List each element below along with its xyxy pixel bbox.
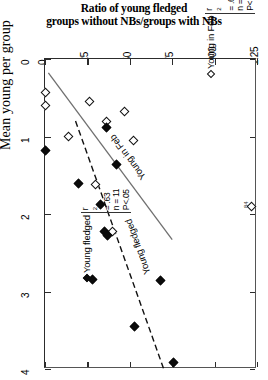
x-tick-bottom-0: [45, 362, 46, 367]
y-tick-right-2: [250, 214, 255, 215]
y-tick-label-2: 2: [20, 214, 31, 220]
x-tick-bottom-1: [87, 362, 88, 367]
legend-label-young-in-feb: Young in Feb: [205, 16, 216, 69]
y-tick-label-3: 3: [20, 292, 31, 298]
y-tick-2: [45, 214, 51, 215]
legend-r2-young-fledged: r2 = .63: [81, 189, 112, 210]
legend-stats-young-fledged: r2 = .63 n = 11 P<.05: [81, 189, 131, 213]
x-tick-bottom-2: [130, 362, 131, 367]
y-tick-4: [45, 369, 51, 370]
x-tick-3: [172, 59, 173, 65]
x-tick-bottom-5: [257, 362, 258, 367]
x-tick-1: [87, 59, 88, 65]
filled-diamond-icon: [82, 274, 90, 282]
legend-p-young-in-feb: P<.05: [246, 0, 256, 11]
y-tick-0: [45, 59, 51, 60]
y-tick-label-1: 1: [20, 137, 31, 143]
open-diamond-icon: [206, 70, 214, 78]
legend-r2-young-in-feb: r2 = .69: [205, 0, 236, 11]
y-tick-3: [45, 292, 51, 293]
y-tick-label-4: 4: [20, 369, 31, 375]
legend-young-fledged: Young fledged r2 = .63 n = 11 P<.05: [81, 281, 173, 331]
y-tick-1: [45, 137, 51, 138]
legend-stats-young-in-feb: r2 = .69 n = 10 P<.05: [205, 0, 255, 14]
x-tick-bottom-4: [215, 362, 216, 367]
legend-young-in-feb: Young in Feb r2 = .69 n = 10 P<.05: [205, 77, 268, 127]
x-tick-2: [130, 59, 131, 65]
y-axis-title: Mean young per group: [0, 20, 14, 150]
y-tick-right-1: [250, 137, 255, 138]
right-axis-annotation: 84: [243, 202, 249, 208]
y-tick-right-3: [250, 292, 255, 293]
y-tick-right-4: [250, 369, 255, 370]
x-tick-5: [257, 59, 258, 65]
legend-label-young-fledged: Young fledged: [81, 215, 92, 273]
y-tick-label-0: 0: [20, 59, 31, 65]
legend-series-young-fledged: Young fledged: [81, 213, 92, 281]
legend-series-young-in-feb: Young in Feb: [205, 14, 216, 77]
legend-p-young-fledged: P<.05: [122, 189, 132, 210]
plot-area: Young in Feb Young fledged 84 Young in F…: [44, 58, 256, 368]
